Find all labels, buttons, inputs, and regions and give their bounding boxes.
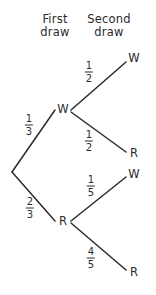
column-header-first-draw: First draw	[40, 13, 69, 39]
fraction-denominator: 3	[25, 126, 33, 137]
probability-tree-diagram: First draw Second draw W R W R W R 1 3 2…	[0, 0, 156, 295]
probability-label-white-to-red: 1 2	[85, 130, 93, 153]
fraction-denominator: 5	[87, 187, 95, 198]
column-header-second-draw-line2: draw	[87, 26, 131, 39]
branch-w-to-w	[71, 62, 126, 110]
fraction-numerator: 4	[87, 247, 95, 258]
fraction-numerator: 1	[85, 61, 93, 72]
node-second-draw-red-from-white: R	[130, 147, 138, 160]
fraction-denominator: 2	[85, 73, 93, 84]
fraction-numerator: 1	[87, 175, 95, 186]
node-first-draw-red: R	[59, 215, 67, 228]
fraction-denominator: 5	[87, 259, 95, 270]
column-header-second-draw: Second draw	[87, 13, 131, 39]
node-first-draw-white: W	[57, 103, 68, 116]
node-second-draw-red-from-red: R	[130, 266, 138, 279]
probability-label-red-to-white: 1 5	[87, 175, 95, 198]
branch-r-to-w	[71, 177, 126, 221]
branch-w-to-r	[71, 112, 126, 152]
node-second-draw-white-from-red: W	[128, 168, 139, 181]
column-header-second-draw-line1: Second	[87, 13, 131, 26]
probability-label-root-to-red: 2 3	[26, 197, 34, 220]
column-header-first-draw-line2: draw	[40, 26, 69, 39]
branch-root-to-w	[12, 110, 55, 172]
probability-label-white-to-white: 1 2	[85, 61, 93, 84]
fraction-numerator: 1	[85, 130, 93, 141]
column-header-first-draw-line1: First	[40, 13, 69, 26]
branch-r-to-r	[71, 223, 126, 270]
fraction-numerator: 1	[25, 114, 33, 125]
node-second-draw-white-from-white: W	[128, 52, 139, 65]
fraction-denominator: 2	[85, 142, 93, 153]
fraction-denominator: 3	[26, 209, 34, 220]
probability-label-root-to-white: 1 3	[25, 114, 33, 137]
fraction-numerator: 2	[26, 197, 34, 208]
probability-label-red-to-red: 4 5	[87, 247, 95, 270]
